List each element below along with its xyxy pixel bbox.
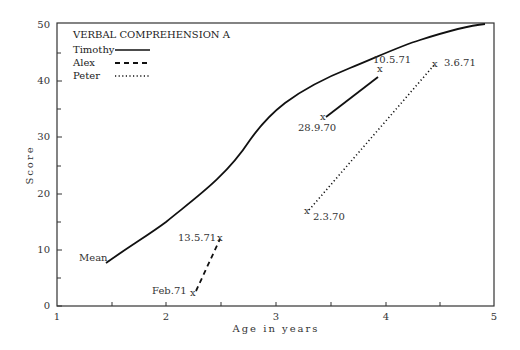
point-label: 3.6.71 xyxy=(444,57,476,68)
point-label: 28.9.70 xyxy=(298,122,336,133)
point-label: Feb.71 xyxy=(152,285,187,296)
mean-curve xyxy=(106,24,485,263)
point-marker: x xyxy=(217,232,223,243)
legend-label-peter: Peter xyxy=(73,70,100,81)
y-tick-label: 50 xyxy=(37,19,50,30)
point-marker: x xyxy=(190,287,196,298)
x-axis-label: Age in years xyxy=(232,323,320,334)
point-label: 2.3.70 xyxy=(313,211,345,222)
chart-title: VERBAL COMPREHENSION A xyxy=(72,29,231,40)
x-axis: 1 2 3 4 5 Age in years xyxy=(54,302,497,334)
point-marker: x xyxy=(432,58,438,69)
y-tick-label: 0 xyxy=(44,300,50,311)
y-tick-label: 30 xyxy=(37,131,50,142)
series-alex xyxy=(196,239,220,291)
point-marker: x xyxy=(304,205,310,216)
y-tick-label: 10 xyxy=(37,244,50,255)
point-label: 10.5.71 xyxy=(373,54,411,65)
chart: 0 10 20 30 40 50 Score 1 2 3 4 5 Age in … xyxy=(0,0,520,350)
point-marker: x xyxy=(320,111,326,122)
series-timothy xyxy=(326,77,378,117)
x-tick-label: 1 xyxy=(54,311,60,322)
legend: VERBAL COMPREHENSION A Timothy Alex Pete… xyxy=(72,29,231,81)
x-tick-label: 4 xyxy=(383,311,389,322)
legend-label-alex: Alex xyxy=(72,57,95,68)
mean-label: Mean xyxy=(79,252,108,263)
plot-frame xyxy=(57,23,494,306)
x-tick-label: 2 xyxy=(163,311,169,322)
x-tick-label: 3 xyxy=(273,311,279,322)
point-label: 13.5.71 xyxy=(178,232,216,243)
y-axis-label: Score xyxy=(24,145,35,184)
x-tick-label: 5 xyxy=(491,311,497,322)
series-peter xyxy=(309,64,435,210)
y-tick-label: 20 xyxy=(37,188,50,199)
y-tick-label: 40 xyxy=(37,75,50,86)
legend-label-timothy: Timothy xyxy=(73,44,115,55)
y-axis: 0 10 20 30 40 50 Score xyxy=(24,19,62,311)
